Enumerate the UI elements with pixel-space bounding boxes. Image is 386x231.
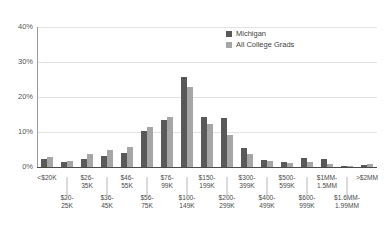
legend-swatch-icon (226, 31, 232, 37)
x-axis-tick-mark (187, 177, 188, 199)
y-axis-tick-label: 40% (0, 23, 33, 31)
x-axis-labels: <$20K$20-25K$26-35K$36-45K$46-55K$56-75K… (37, 169, 377, 227)
x-axis-tick-label: $150-199K (199, 174, 216, 190)
legend-swatch-icon (226, 42, 232, 48)
x-axis-tick-label: $46-55K (120, 174, 133, 190)
x-axis-tick-label: $500-599K (279, 174, 296, 190)
legend-item-michigan: Michigan (226, 28, 294, 39)
legend-label: All College Grads (236, 39, 294, 50)
x-axis-tick-label: >$2MM (356, 174, 378, 182)
x-axis-tick-mark (267, 177, 268, 199)
chart-legend: Michigan All College Grads (226, 28, 294, 50)
x-axis-tick-mark (107, 177, 108, 199)
x-axis-tick-mark (307, 177, 308, 199)
legend-label: Michigan (236, 28, 266, 39)
bar-chart: 0%10%20%30%40% Michigan All College Grad… (0, 0, 386, 231)
x-axis-tick-mark (347, 177, 348, 199)
y-axis-tick-label: 10% (0, 128, 33, 136)
x-axis-tick-mark (147, 177, 148, 199)
x-axis-tick-label: $300-399K (239, 174, 256, 190)
x-axis-tick-label: $26-35K (80, 174, 93, 190)
x-axis-tick-label: $1MM-1.5MM (317, 174, 338, 190)
legend-item-all-college-grads: All College Grads (226, 39, 294, 50)
y-axis-tick-label: 20% (0, 93, 33, 101)
x-axis-tick-label: <$20K (37, 174, 56, 182)
x-axis-tick-mark (227, 177, 228, 199)
y-axis-tick-label: 30% (0, 58, 33, 66)
x-axis-tick-mark (67, 177, 68, 199)
y-axis-tick-label: 0% (0, 163, 33, 171)
x-axis-tick-label: $76-99K (160, 174, 173, 190)
